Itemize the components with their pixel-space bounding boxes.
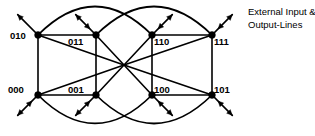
annotation-group: External Input & Output-Lines [248, 6, 315, 30]
node-dot-000[interactable] [35, 92, 42, 99]
node-dot-011[interactable] [93, 32, 100, 39]
external-io-annotation-line2: Output-Lines [248, 19, 303, 30]
node-label-111: 111 [214, 36, 230, 47]
node-label-110: 110 [154, 36, 169, 47]
node-label-000: 000 [8, 84, 24, 95]
curved-edge-bottom-left-ellipse [38, 95, 152, 124]
node-dot-001[interactable] [93, 92, 100, 99]
diagonal-edges-group [38, 35, 212, 95]
node-label-001: 001 [68, 84, 85, 95]
node-label-011: 011 [68, 36, 84, 47]
curved-edge-top-right-ellipse [96, 7, 212, 36]
curved-edge-top-left-ellipse [38, 7, 152, 36]
graph-canvas: 010011110111000001100101 External Input … [0, 0, 315, 136]
node-label-101: 101 [214, 84, 231, 95]
network-topology-diagram: 010011110111000001100101 External Input … [0, 0, 315, 136]
node-label-010: 010 [10, 30, 26, 41]
external-io-annotation-line1: External Input & [248, 6, 315, 17]
curved-edge-bottom-right-ellipse [96, 95, 212, 124]
node-label-100: 100 [154, 84, 170, 95]
node-dot-010[interactable] [35, 32, 42, 39]
